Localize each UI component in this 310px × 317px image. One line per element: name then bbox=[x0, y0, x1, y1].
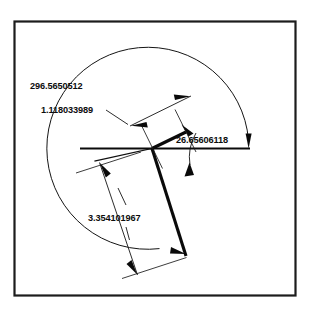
drawing-canvas: 296.5650512 1.118033989 26.65606118 3.35… bbox=[0, 0, 310, 317]
dimension-label-arc-angle: 296.5650512 bbox=[30, 81, 83, 91]
dimension-label-upper-length: 1.118033989 bbox=[41, 105, 93, 115]
dimension-label-lower-length: 3.354101967 bbox=[88, 213, 141, 223]
dimension-label-vertex-angle: 26.65606118 bbox=[176, 135, 228, 145]
technical-drawing-svg: 296.5650512 1.118033989 26.65606118 3.35… bbox=[0, 0, 310, 317]
